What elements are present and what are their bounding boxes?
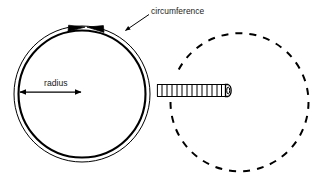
diagram-canvas: circumference radius — [0, 0, 310, 177]
tape-measure-group — [157, 85, 231, 97]
circumference-leader-line — [126, 15, 150, 31]
tape-end-cap-hole — [227, 87, 230, 94]
dashed-circle-arc — [170, 33, 308, 171]
circle-outer-edge — [14, 26, 150, 162]
circle-inner-edge — [19, 31, 146, 158]
tape-ticks — [162, 85, 226, 96]
radius-label: radius — [44, 79, 68, 88]
dashed-circle-group — [170, 33, 308, 171]
circle-measurement-diagram — [0, 0, 310, 177]
circumference-label: circumference — [151, 7, 204, 15]
solid-circle-group — [14, 26, 150, 162]
